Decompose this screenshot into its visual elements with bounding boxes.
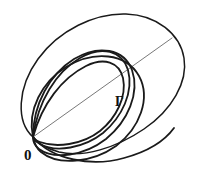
diagram-canvas: 0 Γ bbox=[0, 0, 198, 175]
origin-point-label: 0 bbox=[24, 147, 32, 163]
geometric-figure: 0 Γ bbox=[0, 0, 198, 175]
outer-curve-label-gamma: Γ bbox=[115, 94, 124, 109]
